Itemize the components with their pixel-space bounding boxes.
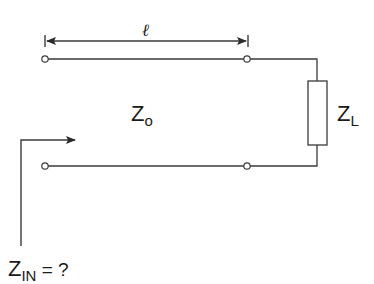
bottom-conductor bbox=[42, 145, 317, 169]
input-impedance-main: Z bbox=[8, 256, 21, 281]
terminal-circle-bottom-left bbox=[42, 163, 48, 169]
input-arrow bbox=[21, 140, 75, 246]
line-impedance-label: Zo bbox=[131, 103, 153, 125]
terminal-circle-bottom-right bbox=[244, 163, 250, 169]
input-impedance-suffix: = ? bbox=[36, 259, 68, 280]
transmission-line-diagram bbox=[0, 0, 374, 284]
load-resistor-icon bbox=[308, 81, 327, 145]
load-impedance-label: ZL bbox=[337, 103, 359, 125]
top-load-wire bbox=[250, 59, 317, 81]
top-conductor bbox=[42, 56, 317, 81]
length-label: ℓ bbox=[142, 22, 149, 39]
bottom-load-wire bbox=[250, 145, 317, 166]
terminal-circle-top-right bbox=[244, 56, 250, 62]
line-impedance-main: Z bbox=[131, 101, 144, 126]
input-impedance-label: ZIN = ? bbox=[8, 258, 69, 280]
input-impedance-sub: IN bbox=[21, 267, 36, 284]
terminal-circle-top-left bbox=[42, 56, 48, 62]
load-impedance-main: Z bbox=[337, 101, 350, 126]
load-impedance-sub: L bbox=[350, 112, 358, 129]
line-impedance-sub: o bbox=[144, 112, 152, 129]
